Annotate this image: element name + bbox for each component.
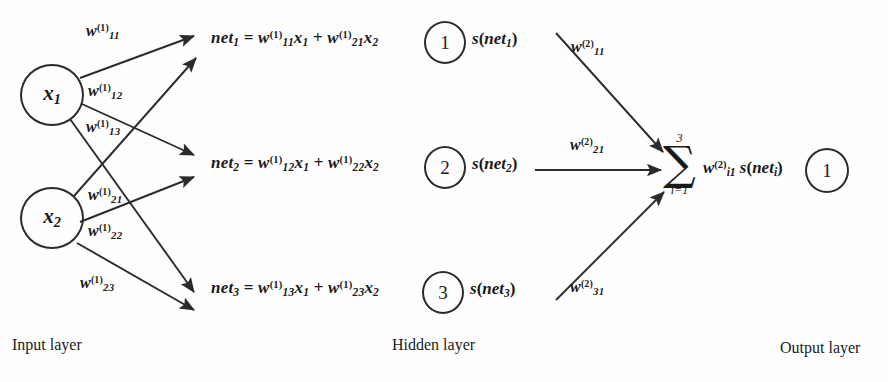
hidden-equation-net3: net3 = w(1)13x1 + w(1)23x2 (211, 278, 379, 299)
weight-label-w11-2: w(2)11 (571, 38, 605, 57)
hidden-equation-net2: net2 = w(1)12x1 + w(1)22x2 (211, 153, 379, 174)
summation-lower-limit: i=1 (671, 184, 688, 196)
input-node-x1[interactable]: x1 (20, 64, 84, 126)
sigma-icon: ∑ (663, 144, 696, 184)
weight-label-w23-1: w(1)23 (80, 274, 114, 293)
neural-network-diagram: x1 x2 w(1)11 w(1)12 w(1)13 w(1)21 w(1)22… (0, 0, 888, 382)
weight-label-w22-1: w(1)22 (88, 222, 122, 241)
weight-label-w13-1: w(1)13 (86, 118, 120, 137)
weight-label-w31-2: w(2)31 (570, 278, 604, 297)
hidden-node-1-label: 1 (440, 33, 450, 52)
input-node-x2[interactable]: x2 (20, 187, 84, 249)
activation-label-1: s(net1) (472, 29, 517, 50)
edge-x1-net3 (70, 119, 194, 292)
weight-label-w12-1: w(1)12 (88, 82, 122, 101)
hidden-node-3[interactable]: 3 (422, 271, 464, 314)
weight-label-w21-2: w(2)21 (570, 136, 604, 155)
output-summation-expression: w(2)i1 s(neti) (703, 158, 783, 179)
hidden-node-2[interactable]: 2 (424, 146, 466, 189)
weight-label-w21-1: w(1)21 (88, 186, 122, 205)
input-node-x1-label: x1 (43, 83, 61, 106)
hidden-node-3-label: 3 (438, 283, 448, 302)
weight-label-w11-1: w(1)11 (86, 22, 120, 41)
hidden-node-2-label: 2 (440, 158, 450, 177)
input-node-x2-label: x2 (43, 206, 61, 229)
activation-label-3: s(net3) (470, 279, 515, 300)
hidden-node-1[interactable]: 1 (424, 21, 466, 64)
edge-x1-net1 (80, 36, 194, 78)
caption-hidden-layer: Hidden layer (392, 336, 475, 354)
summation-symbol: 3 ∑ i=1 (663, 132, 696, 196)
caption-output-layer: Output layer (780, 339, 860, 357)
hidden-equation-net1: net1 = w(1)11x1 + w(1)21x2 (211, 28, 378, 49)
output-node-1[interactable]: 1 (805, 148, 849, 193)
output-node-1-label: 1 (822, 161, 832, 180)
caption-input-layer: Input layer (12, 336, 82, 354)
activation-label-2: s(net2) (472, 154, 517, 175)
